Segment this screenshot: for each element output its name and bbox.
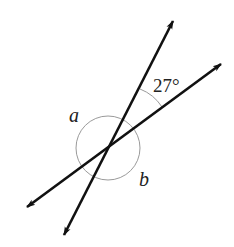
- line-steep: [64, 21, 173, 235]
- label-angle-a: a: [69, 104, 79, 126]
- label-27-degrees: 27°: [153, 75, 180, 96]
- line-shallow: [27, 64, 221, 207]
- label-angle-b: b: [139, 168, 149, 190]
- angle-diagram: 27° a b: [0, 0, 234, 247]
